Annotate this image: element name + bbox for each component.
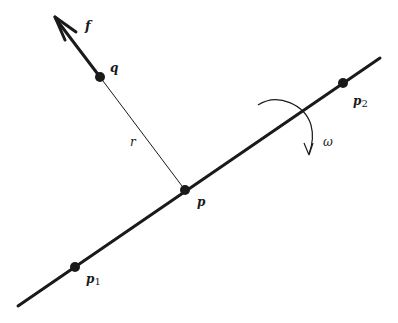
point-p1-label: p1 xyxy=(86,272,101,287)
rigid-body-rotation-diagram: f q r p p1 p2 ω xyxy=(0,0,398,323)
point-p2-label: p2 xyxy=(353,94,368,109)
omega-label: ω xyxy=(323,135,333,149)
point-p1-dot xyxy=(70,262,80,272)
r-segment xyxy=(100,77,185,190)
point-p-dot xyxy=(180,185,190,195)
point-q-label: q xyxy=(110,61,118,75)
point-p-label: p xyxy=(197,195,206,209)
point-q-dot xyxy=(95,72,105,82)
force-label: f xyxy=(84,18,93,33)
force-arrow xyxy=(55,17,100,77)
r-label: r xyxy=(130,135,137,149)
point-p2-dot xyxy=(338,78,348,88)
